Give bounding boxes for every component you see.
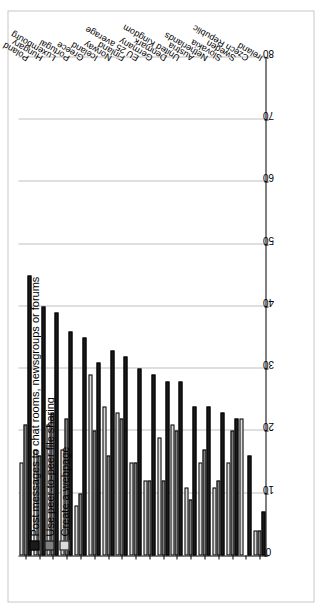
bar-group [197,58,211,555]
category-tick [25,555,26,559]
bar [92,431,96,556]
chart-canvas: 01020304050607080 IrelandCzech RepublicS… [0,0,321,612]
bar [19,462,23,555]
bar [74,505,78,555]
bar-group [225,58,239,555]
category-tick [52,555,53,559]
value-tick-label-30: 30 [262,358,273,369]
value-tick-label-10: 10 [262,483,273,494]
value-tick-30 [264,368,268,369]
bar-group [73,58,87,555]
bar [110,350,114,555]
legend-item-peer-to-peer: Use peer-to-peer file sharing [43,276,55,550]
bar [123,356,127,555]
bar [178,381,182,555]
category-tick [245,555,246,559]
category-tick [121,555,122,559]
category-tick [218,555,219,559]
bar [206,406,210,555]
bar [174,431,178,556]
bar [151,374,155,555]
bar [133,462,137,555]
bar-group [211,58,225,555]
value-tick-70 [264,119,268,120]
value-tick-40 [264,306,268,307]
category-tick [66,555,67,559]
category-axis-labels: IrelandCzech RepublicSwedenSlovakiaNethe… [18,0,268,58]
bar-group [142,58,156,555]
bar [226,462,230,555]
legend-item-post-messages: Post messages to chat rooms, newsgroups … [28,276,40,550]
value-tick-label-20: 20 [262,421,273,432]
value-tick-label-40: 40 [262,296,273,307]
bar [212,487,216,555]
bar [115,412,119,555]
bar [170,424,174,555]
legend-item-create-webpage: Create a webpage [58,276,70,550]
value-tick-label-50: 50 [262,234,273,245]
bar [239,418,243,555]
bar [198,462,202,555]
bar-group [114,58,128,555]
bar-group [238,58,252,555]
bar [102,406,106,555]
chart-legend: Post messages to chat rooms, newsgroups … [28,276,73,550]
bar [192,406,196,555]
value-tick-label-70: 70 [262,109,273,120]
bar [157,437,161,555]
category-tick [135,555,136,559]
category-tick [163,555,164,559]
category-tick [232,555,233,559]
category-tick [176,555,177,559]
bar [23,424,27,555]
bar [82,337,86,555]
bar [96,362,100,555]
bar [202,449,206,555]
legend-swatch-create-webpage [59,540,69,550]
bar [147,480,151,555]
rotated-chart-wrapper: 01020304050607080 IrelandCzech RepublicS… [0,0,321,612]
bar [129,462,133,555]
chart-page: 01020304050607080 IrelandCzech RepublicS… [0,0,321,612]
bar [184,487,188,555]
bar [234,418,238,555]
value-tick-label-0: 0 [265,545,271,556]
category-tick [259,555,260,559]
category-tick [108,555,109,559]
bar-group [170,58,184,555]
legend-label-post-messages: Post messages to chat rooms, newsgroups … [28,276,40,536]
legend-label-peer-to-peer: Use peer-to-peer file sharing [43,397,55,536]
category-tick [149,555,150,559]
value-tick-50 [264,244,268,245]
category-tick [39,555,40,559]
bar [188,499,192,555]
bar [78,493,82,555]
bar-group [183,58,197,555]
legend-label-create-webpage: Create a webpage [58,446,70,536]
bar [143,480,147,555]
bar [119,418,123,555]
value-tick-20 [264,431,268,432]
bar [247,455,251,555]
value-axis-labels: 01020304050607080 [268,58,302,556]
value-tick-0 [264,555,268,556]
bar [230,431,234,556]
bar [137,368,141,555]
bar [216,480,220,555]
bar [161,480,165,555]
bar [88,374,92,555]
category-tick [190,555,191,559]
bar-group [156,58,170,555]
bar [220,412,224,555]
legend-swatch-post-messages [29,540,39,550]
bar [257,530,261,555]
value-tick-60 [264,182,268,183]
category-tick [94,555,95,559]
value-tick-label-60: 60 [262,172,273,183]
bar-group [87,58,101,555]
category-tick [80,555,81,559]
bar [165,381,169,555]
legend-swatch-peer-to-peer [44,540,54,550]
category-tick [204,555,205,559]
value-tick-10 [264,493,268,494]
